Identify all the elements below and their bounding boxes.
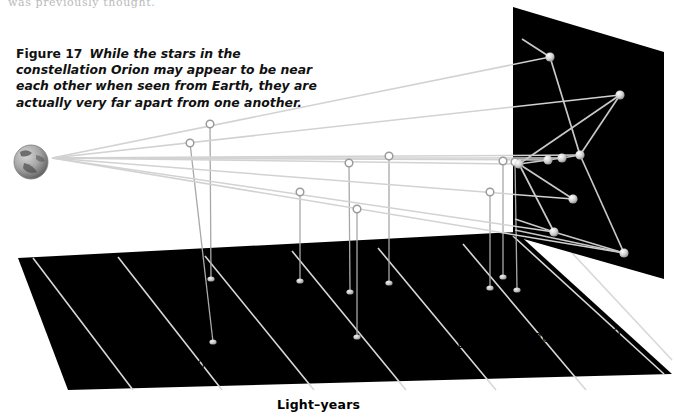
floor-dot-3 — [296, 278, 303, 283]
floor-dot-6 — [385, 280, 392, 285]
distance-marker-2 — [186, 139, 194, 147]
distance-marker-1 — [206, 120, 214, 128]
axis-title: Light–years — [277, 397, 360, 412]
floor-dot-8 — [499, 274, 506, 279]
star-8 — [549, 227, 558, 236]
axis-tick-0: 0 — [128, 362, 136, 377]
star-1 — [545, 52, 554, 61]
star-6 — [575, 150, 584, 159]
axis-tick-400: 400 — [253, 352, 277, 367]
axis-tick-1400: 1,400 — [585, 325, 621, 340]
star-9 — [619, 248, 628, 257]
star-3 — [514, 159, 523, 168]
distance-marker-8 — [499, 157, 507, 165]
floor-dot-2 — [209, 339, 216, 344]
floor-dot-9 — [513, 287, 520, 292]
figure-17-illustration: was previously thought. — [0, 0, 674, 418]
axis-tick-600: 600 — [320, 347, 344, 362]
star-4 — [543, 155, 552, 164]
figure-caption: Figure 17While the stars in the constell… — [16, 46, 326, 111]
floor-dot-1 — [207, 276, 214, 281]
distance-marker-6 — [385, 152, 393, 160]
star-2 — [615, 90, 624, 99]
axis-tick-800: 800 — [389, 341, 413, 356]
star-5 — [557, 153, 566, 162]
star-7 — [568, 194, 577, 203]
floor-dot-7 — [486, 285, 493, 290]
axis-tick-1200: 1,200 — [522, 330, 558, 345]
axis-tick-1000: 1,000 — [455, 336, 491, 351]
distance-marker-3 — [296, 188, 304, 196]
earth-globe-group — [14, 145, 48, 179]
floor-dot-5 — [353, 334, 360, 339]
figure-number: Figure 17 — [16, 46, 82, 61]
floor-dot-4 — [346, 289, 353, 294]
distance-marker-5 — [353, 205, 361, 213]
distance-marker-7 — [486, 188, 494, 196]
distance-markers — [186, 120, 519, 213]
axis-tick-200: 200 — [189, 357, 213, 372]
distance-marker-4 — [345, 159, 353, 167]
